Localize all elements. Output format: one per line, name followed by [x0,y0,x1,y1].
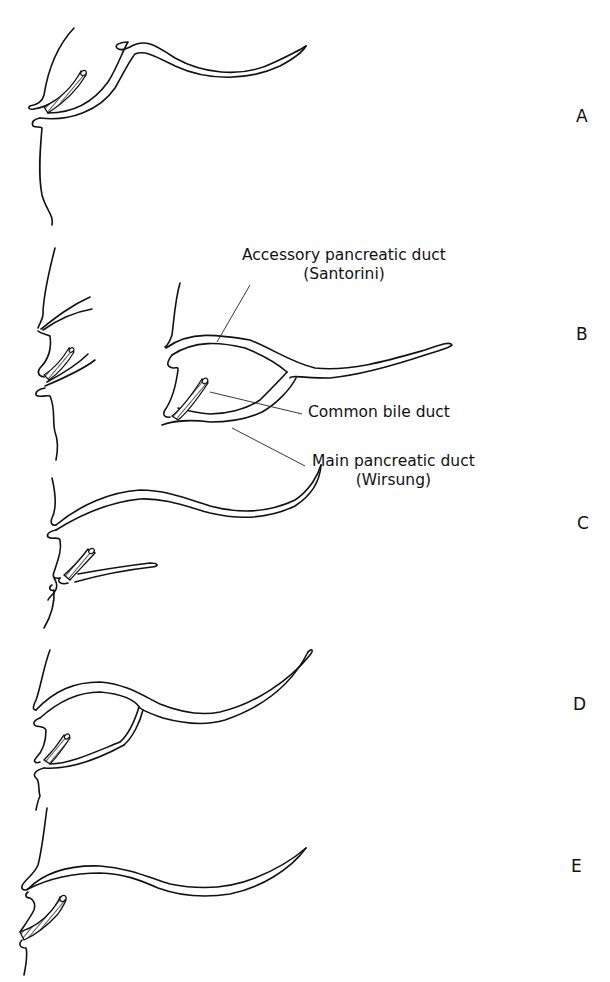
callout-common-bile-duct-name: Common bile duct [308,403,450,422]
callout-main-duct: Main pancreatic duct (Wirsung) [312,452,475,490]
panel-label-e: E [571,858,582,875]
panel-label-c: C [577,515,589,532]
panel-e-drawing [20,808,306,975]
callout-accessory-duct-name: Accessory pancreatic duct [242,246,446,265]
callout-accessory-duct-eponym: (Santorini) [242,265,446,284]
figure-canvas: A B C D E Accessory pancreatic duct (San… [0,0,610,982]
panel-b-main-drawing [162,283,452,466]
duct-drawings [0,0,610,982]
panel-c-drawing [44,465,321,628]
panel-d-drawing [33,650,312,810]
callout-common-bile-duct: Common bile duct [308,403,450,422]
panel-label-d: D [573,696,586,713]
panel-label-b: B [576,326,588,343]
panel-a-drawing [29,28,306,225]
callout-accessory-duct: Accessory pancreatic duct (Santorini) [242,246,446,284]
panel-b-left-drawing [36,248,95,460]
callout-main-duct-eponym: (Wirsung) [312,471,475,490]
panel-label-a: A [576,108,588,125]
callout-main-duct-name: Main pancreatic duct [312,452,475,471]
